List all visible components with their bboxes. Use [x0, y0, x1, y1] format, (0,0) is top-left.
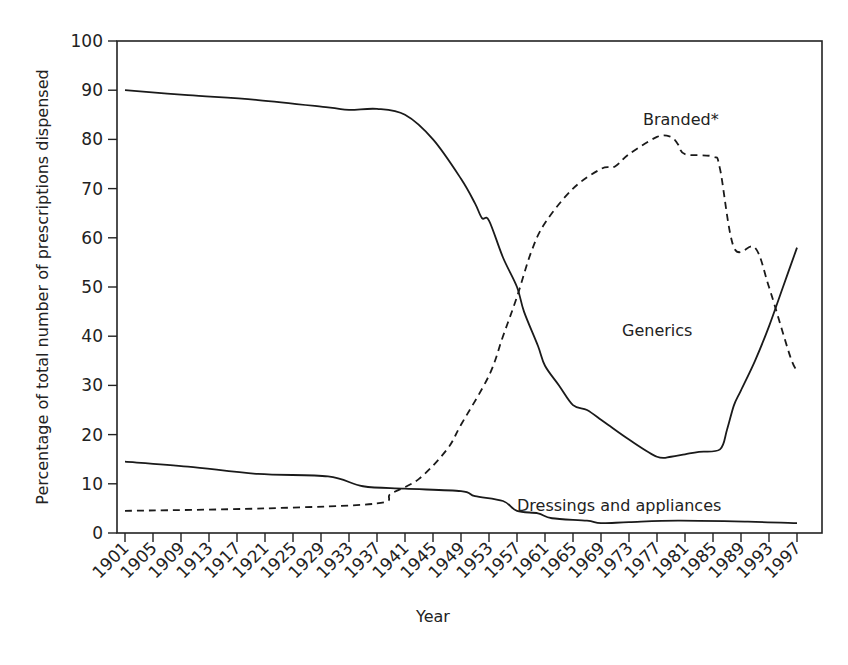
x-axis: 1901190519091913191719211925192919331937…	[88, 533, 805, 582]
series-label: Branded*	[643, 110, 719, 129]
y-tick-label: 70	[81, 179, 103, 199]
y-tick-label: 60	[81, 228, 103, 248]
y-tick-label: 50	[81, 277, 103, 297]
y-tick-label: 90	[81, 80, 103, 100]
line-chart: 0102030405060708090100 19011905190919131…	[0, 0, 848, 665]
y-axis-title: Percentage of total number of prescripti…	[33, 69, 52, 504]
x-axis-title: Year	[415, 607, 450, 626]
series-label: Generics	[622, 321, 692, 340]
y-tick-label: 10	[81, 474, 103, 494]
y-tick-label: 20	[81, 425, 103, 445]
y-tick-label: 40	[81, 326, 103, 346]
series-line-generics	[125, 90, 797, 458]
y-tick-label: 0	[92, 523, 103, 543]
series-lines	[125, 90, 797, 523]
y-tick-label: 100	[71, 31, 103, 51]
series-label: Dressings and appliances	[517, 496, 721, 515]
y-tick-label: 30	[81, 375, 103, 395]
y-axis: 0102030405060708090100	[71, 31, 117, 543]
series-line-branded	[125, 135, 797, 511]
y-tick-label: 80	[81, 129, 103, 149]
